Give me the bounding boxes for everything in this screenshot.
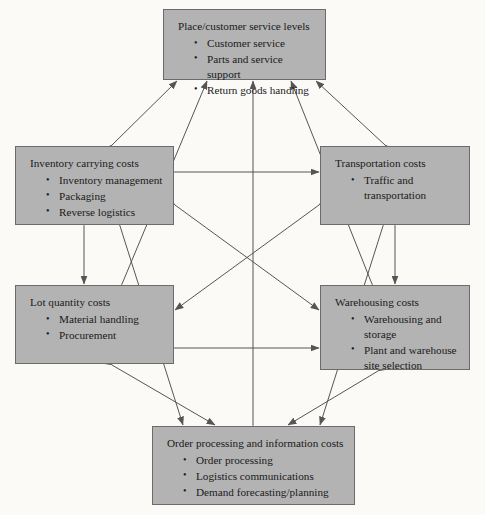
node-item-list: Traffic and transportation [321,173,469,203]
node-place-customer-service-levels[interactable]: Place/customer service levels Customer s… [163,9,326,80]
arrow-warehouse-order [288,371,378,425]
node-item-list: Order processing Logistics communication… [153,453,354,500]
node-warehousing-costs[interactable]: Warehousing costs Warehousing and storag… [320,285,470,370]
list-item: Return goods handling [194,83,319,98]
list-item: Demand forecasting/planning [183,485,348,500]
list-item: Reverse logistics [46,205,167,220]
node-title: Inventory carrying costs [16,147,173,172]
node-inventory-carrying-costs[interactable]: Inventory carrying costs Inventory manag… [15,146,174,225]
node-item-list: Warehousing and storage Plant and wareho… [321,312,469,373]
node-title: Order processing and information costs [153,427,354,452]
list-item: Customer service [194,36,319,51]
list-item: Packaging [46,189,167,204]
node-title: Place/customer service levels [164,10,325,35]
list-item: Logistics communications [183,469,348,484]
node-title: Transportation costs [321,147,469,172]
list-item: Warehousing and storage [351,312,463,342]
node-item-list: Inventory management Packaging Reverse l… [16,173,173,220]
node-item-list: Material handling Procurement [16,312,173,343]
list-item: Traffic and transportation [351,173,463,203]
node-title: Lot quantity costs [16,286,173,311]
list-item: Parts and service support [194,52,319,82]
list-item: Plant and warehouse site selection [351,343,463,373]
list-item: Inventory management [46,173,167,188]
list-item: Procurement [46,328,167,343]
node-item-list: Customer service Parts and service suppo… [164,36,325,98]
list-item: Order processing [183,453,348,468]
node-title: Warehousing costs [321,286,469,311]
node-order-processing-and-information-costs[interactable]: Order processing and information costs O… [152,426,355,505]
list-item: Material handling [46,312,167,327]
diagram-canvas: Place/customer service levels Customer s… [0,0,485,515]
arrow-lot-order [112,365,215,425]
node-lot-quantity-costs[interactable]: Lot quantity costs Material handling Pro… [15,285,174,364]
node-transportation-costs[interactable]: Transportation costs Traffic and transpo… [320,146,470,225]
arrow-transport-place [316,81,385,145]
